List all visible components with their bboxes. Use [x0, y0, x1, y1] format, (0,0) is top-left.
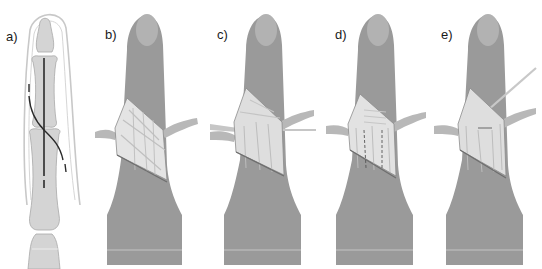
- panel-b: b): [95, 0, 215, 269]
- panel-label-d: d): [335, 27, 347, 42]
- panel-label-e: e): [441, 27, 453, 42]
- panel-label-b: b): [105, 27, 117, 42]
- panel-d: d): [320, 0, 430, 269]
- panel-a: a): [0, 0, 100, 269]
- panel-label-c: c): [217, 27, 228, 42]
- panel-label-a: a): [6, 29, 18, 44]
- panel-e: e): [428, 0, 542, 269]
- panel-c: c): [210, 0, 325, 269]
